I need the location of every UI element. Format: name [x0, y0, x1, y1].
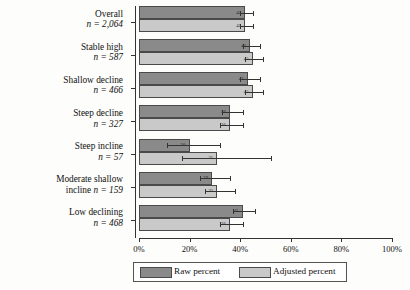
legend-swatch-adjusted: [239, 267, 271, 278]
category-label: Shallow declinen = 466: [0, 75, 123, 96]
category-count: n = 57: [0, 152, 123, 163]
category-count: n = 327: [0, 119, 123, 130]
bar-group: 3636: [139, 105, 392, 138]
category-name: Shallow decline: [0, 75, 123, 86]
error-bar-cap-low: [245, 90, 246, 95]
x-axis-tick-label: 0%: [119, 244, 159, 254]
category-name: Moderate shallow: [56, 174, 123, 184]
error-bar-cap-high: [230, 176, 231, 181]
error-bar-line: [205, 191, 235, 192]
error-bar-line: [200, 178, 230, 179]
category-label: Stable highn = 587: [0, 42, 123, 63]
error-bar-cap-low: [243, 44, 244, 49]
error-bar-cap-low: [245, 57, 246, 62]
error-bar-line: [222, 112, 242, 113]
error-bar-cap-high: [235, 189, 236, 194]
error-bar-line: [220, 125, 243, 126]
error-bar-cap-low: [222, 110, 223, 115]
error-bar-cap-low: [205, 189, 206, 194]
bar-group: 4345: [139, 72, 392, 105]
error-bar-line: [243, 46, 261, 47]
bar-group: 4136: [139, 205, 392, 238]
bar-raw-percent: [139, 105, 230, 118]
x-axis-tick: [341, 238, 342, 242]
error-bar-cap-high: [243, 222, 244, 227]
error-bar-cap-high: [260, 77, 261, 82]
category-tick: [131, 121, 135, 122]
category-count: n = 159: [93, 185, 123, 195]
category-count: n = 587: [0, 52, 123, 63]
category-count: n = 468: [0, 218, 123, 229]
error-bar-line: [245, 59, 263, 60]
error-bar-line: [167, 145, 220, 146]
error-bar-line: [240, 13, 253, 14]
bar-group: 4445: [139, 39, 392, 72]
error-bar-cap-high: [271, 156, 272, 161]
error-bar-cap-high: [220, 143, 221, 148]
chart-legend: Raw percent Adjusted percent: [133, 262, 347, 282]
error-bar-cap-low: [240, 24, 241, 29]
plot-area: 4242444543453636203129314136: [139, 6, 392, 238]
category-count: n = 2,064: [0, 19, 123, 30]
error-bar-cap-low: [220, 222, 221, 227]
error-bar-line: [182, 158, 271, 159]
error-bar-cap-high: [243, 110, 244, 115]
category-label: Moderate shallowincline n = 159: [0, 174, 123, 195]
error-bar-cap-high: [243, 123, 244, 128]
bar-adjusted-percent: [139, 52, 253, 65]
category-count: n = 466: [0, 85, 123, 96]
bar-raw-percent: [139, 6, 245, 19]
category-tick: [131, 187, 135, 188]
bar-adjusted-percent: [139, 218, 230, 231]
x-axis-line: [139, 238, 392, 239]
error-bar-cap-high: [255, 209, 256, 214]
error-bar-cap-low: [240, 77, 241, 82]
category-name: Overall: [0, 9, 123, 20]
x-axis-tick-label: 80%: [321, 244, 361, 254]
category-label: Steep declinen = 327: [0, 108, 123, 129]
bar-adjusted-percent: [139, 85, 253, 98]
bar-raw-percent: [139, 72, 248, 85]
bar-adjusted-percent: [139, 19, 245, 32]
category-label: Steep inclinen = 57: [0, 141, 123, 162]
bar-raw-percent: [139, 39, 250, 52]
category-tick: [131, 154, 135, 155]
error-bar-line: [220, 224, 243, 225]
x-axis-tick: [291, 238, 292, 242]
x-axis-tick: [392, 238, 393, 242]
x-axis-tick-label: 40%: [220, 244, 260, 254]
legend-swatch-raw: [140, 267, 172, 278]
legend-label-adjusted: Adjusted percent: [273, 266, 336, 276]
error-bar-cap-low: [240, 11, 241, 16]
horizontal-bar-chart: Overalln = 2,064Stable highn = 587Shallo…: [0, 0, 410, 290]
x-axis-tick: [190, 238, 191, 242]
x-axis-tick-label: 20%: [170, 244, 210, 254]
category-label: Low decliningn = 468: [0, 207, 123, 228]
x-axis-tick: [139, 238, 140, 242]
x-axis-tick-label: 100%: [372, 244, 410, 254]
bar-raw-percent: [139, 205, 243, 218]
category-tick: [131, 22, 135, 23]
x-axis-tick-label: 60%: [271, 244, 311, 254]
bar-group: 2031: [139, 139, 392, 172]
error-bar-line: [245, 92, 263, 93]
category-label: Overalln = 2,064: [0, 9, 123, 30]
bar-group: 2931: [139, 172, 392, 205]
legend-label-raw: Raw percent: [174, 266, 220, 276]
error-bar-line: [240, 79, 260, 80]
bar-adjusted-percent: [139, 118, 230, 131]
error-bar-cap-low: [233, 209, 234, 214]
bar-group: 4242: [139, 6, 392, 39]
category-name: Low declining: [0, 207, 123, 218]
error-bar-cap-high: [263, 90, 264, 95]
error-bar-cap-high: [263, 57, 264, 62]
error-bar-line: [233, 211, 256, 212]
category-name: incline: [66, 185, 94, 195]
y-axis-line: [135, 6, 136, 238]
error-bar-line: [240, 26, 253, 27]
category-name: Stable high: [0, 42, 123, 53]
x-axis-tick: [240, 238, 241, 242]
category-name: Steep decline: [0, 108, 123, 119]
error-bar-cap-high: [260, 44, 261, 49]
category-tick: [131, 220, 135, 221]
